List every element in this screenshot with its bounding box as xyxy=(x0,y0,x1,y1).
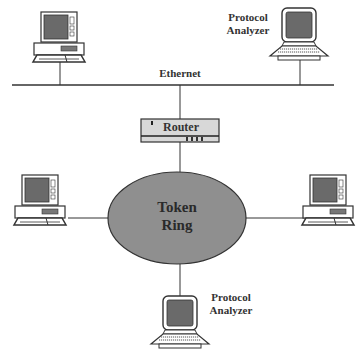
analyzer-top-line1: Protocol xyxy=(213,11,283,24)
protocol-analyzer-bottom-label: Protocol Analyzer xyxy=(196,291,266,317)
protocol-analyzer-top-label: Protocol Analyzer xyxy=(213,11,283,37)
ethernet-label: Ethernet xyxy=(140,67,220,80)
ethernet-desktop-icon xyxy=(33,12,85,62)
analyzer-top-line2: Analyzer xyxy=(213,24,283,37)
token-ring-label: Token Ring xyxy=(127,198,227,234)
router-label: Router xyxy=(150,121,212,134)
ring-left-desktop-icon xyxy=(14,175,66,225)
ring-label-line2: Ring xyxy=(127,216,227,234)
ring-label-line1: Token xyxy=(127,198,227,216)
analyzer-bottom-line1: Protocol xyxy=(196,291,266,304)
ring-right-desktop-icon xyxy=(302,175,354,225)
network-diagram xyxy=(0,0,364,352)
analyzer-bottom-line2: Analyzer xyxy=(196,304,266,317)
